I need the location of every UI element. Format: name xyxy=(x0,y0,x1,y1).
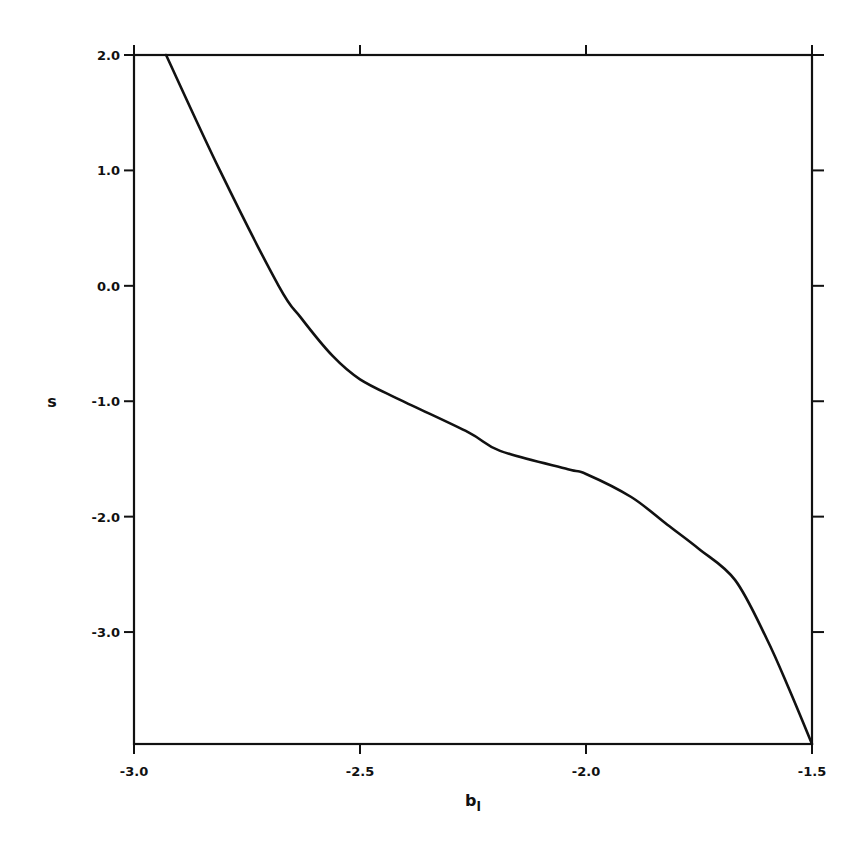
x-axis-label-subscript: l xyxy=(476,799,480,814)
x-tick-label: -3.0 xyxy=(120,764,148,779)
y-tick-label: 1.0 xyxy=(97,163,120,178)
x-axis-label-main: b xyxy=(465,791,476,810)
y-axis-label: s xyxy=(47,392,57,411)
y-tick-label: 2.0 xyxy=(97,48,120,63)
y-tick-label: -2.0 xyxy=(92,510,120,525)
plot-frame xyxy=(134,55,812,744)
x-axis-label: bl xyxy=(465,791,481,814)
x-tick-label: -1.5 xyxy=(798,764,826,779)
data-curve xyxy=(166,55,812,744)
x-tick-label: -2.5 xyxy=(346,764,374,779)
y-axis-ticks: 2.01.00.0-1.0-2.0-3.0 xyxy=(92,48,824,640)
y-tick-label: -3.0 xyxy=(92,625,120,640)
y-tick-label: 0.0 xyxy=(97,279,120,294)
x-tick-label: -2.0 xyxy=(572,764,600,779)
line-chart: -3.0-2.5-2.0-1.5 2.01.00.0-1.0-2.0-3.0 b… xyxy=(0,0,861,841)
x-axis-ticks: -3.0-2.5-2.0-1.5 xyxy=(120,45,826,779)
y-tick-label: -1.0 xyxy=(92,394,120,409)
